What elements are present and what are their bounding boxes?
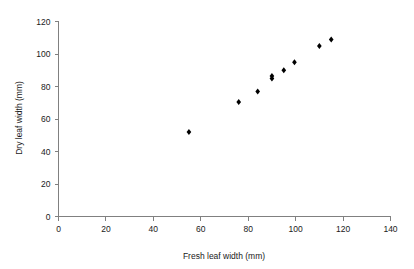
x-tick-label: 0: [56, 224, 61, 234]
x-tick-label: 20: [101, 224, 111, 234]
y-tick-label: 120: [36, 17, 50, 27]
x-tick-label: 60: [196, 224, 206, 234]
x-tick-label: 40: [149, 224, 159, 234]
x-tick-label: 100: [289, 224, 303, 234]
y-tick-label: 60: [41, 114, 51, 124]
chart-background: [0, 0, 414, 269]
x-tick-label: 120: [336, 224, 350, 234]
scatter-plot-figure: 020406080100120 020406080100120140 Fresh…: [0, 0, 414, 269]
y-tick-label: 100: [36, 49, 50, 59]
x-tick-label: 80: [243, 224, 253, 234]
y-axis-title: Dry leaf width (mm): [14, 81, 24, 155]
chart-canvas: 020406080100120 020406080100120140 Fresh…: [0, 0, 414, 269]
y-tick-label: 40: [41, 147, 51, 157]
x-tick-label: 140: [383, 224, 397, 234]
y-tick-label: 80: [41, 82, 51, 92]
y-tick-label: 20: [41, 179, 51, 189]
y-tick-label: 0: [46, 212, 51, 222]
x-axis-title: Fresh leaf width (mm): [183, 251, 265, 261]
